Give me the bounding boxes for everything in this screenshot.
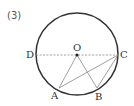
label-a: A — [50, 90, 59, 101]
label-o: O — [73, 42, 81, 53]
label-c: C — [120, 49, 128, 60]
problem-number: (3) — [7, 10, 21, 21]
label-b: B — [95, 91, 102, 102]
center-point-o — [76, 54, 79, 57]
segment-ob — [77, 55, 97, 88]
label-d: D — [26, 49, 34, 60]
geometry-figure: (3) O D C A B — [0, 0, 134, 106]
